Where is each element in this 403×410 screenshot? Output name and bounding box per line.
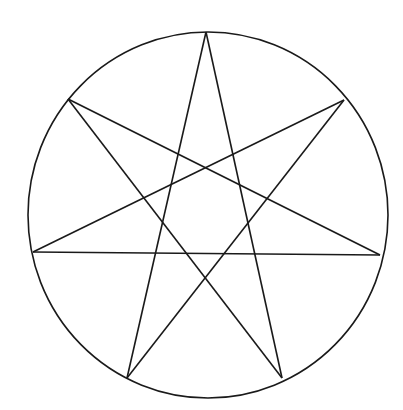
star-edges bbox=[33, 32, 380, 378]
star-edge bbox=[68, 99, 380, 255]
star-edge bbox=[68, 99, 282, 378]
star-edge bbox=[206, 32, 282, 378]
star-edge bbox=[33, 100, 344, 252]
heptagram-diagram bbox=[0, 0, 403, 410]
star-edge bbox=[33, 252, 380, 255]
outer-circle bbox=[28, 32, 388, 398]
